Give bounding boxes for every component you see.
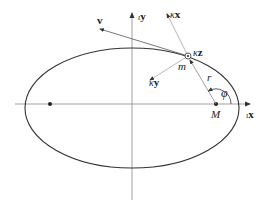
body-x-axis <box>167 14 188 56</box>
radius-line <box>190 60 216 104</box>
velocity-vector <box>100 29 188 56</box>
body-y-label: κy <box>149 76 160 88</box>
central-body-label: M <box>210 108 221 120</box>
body-z-label: κz <box>193 46 203 58</box>
radius-label: r <box>207 71 212 83</box>
velocity-label: v <box>97 14 103 26</box>
body-x-label: κx <box>170 8 181 20</box>
empty-focus-dot <box>48 102 52 106</box>
angle-label: φ <box>221 86 228 100</box>
mass-label: m <box>178 60 186 72</box>
body-z-marker <box>185 53 191 59</box>
inertial-y-label: ιy <box>138 10 146 22</box>
inertial-x-label: ιx <box>246 108 254 120</box>
orbit-diagram: v ιy κx κz m κy r φ M ιx <box>0 0 268 210</box>
